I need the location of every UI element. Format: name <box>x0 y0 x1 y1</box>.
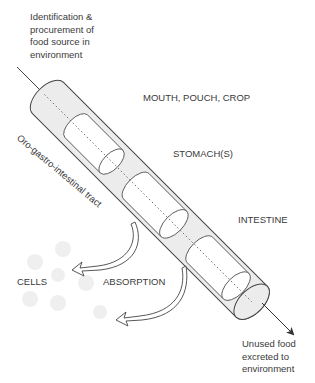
segment-label-stomach: STOMACH(S) <box>173 148 233 161</box>
cells-label: CELLS <box>17 276 47 289</box>
absorption-arrow-intestine <box>116 266 187 326</box>
absorption-label: ABSORPTION <box>103 276 165 289</box>
output-label: Unused food excreted to environment <box>242 338 296 376</box>
output-arrow <box>262 303 293 334</box>
input-label: Identification & procurement of food sou… <box>30 11 94 61</box>
segment-label-intestine: INTESTINE <box>238 214 288 227</box>
segment-label-mouth: MOUTH, POUCH, CROP <box>143 92 250 105</box>
absorption-arrow-stomach <box>72 222 138 276</box>
